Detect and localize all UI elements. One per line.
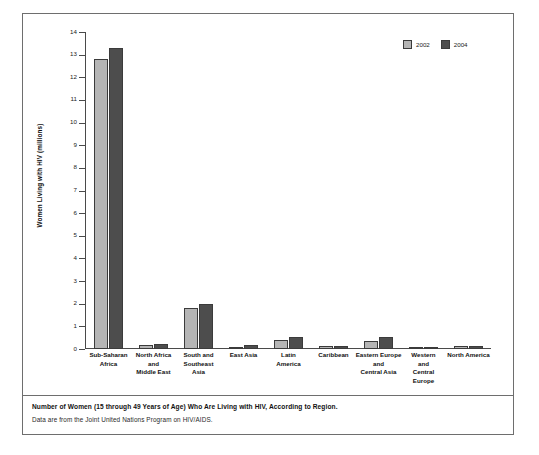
legend-label: 2004 bbox=[454, 41, 468, 48]
bar-2004 bbox=[244, 345, 259, 349]
y-tick: 10 bbox=[79, 123, 85, 124]
bar-group bbox=[94, 32, 124, 349]
y-tick: 12 bbox=[79, 77, 85, 78]
bar-group bbox=[229, 32, 259, 349]
y-tick-label: 10 bbox=[70, 118, 77, 125]
bar-2002 bbox=[139, 345, 154, 349]
y-tick-label: 0 bbox=[74, 345, 77, 352]
y-tick-label: 5 bbox=[74, 231, 77, 238]
caption-title: Number of Women (15 through 49 Years of … bbox=[32, 403, 504, 410]
y-tick-label: 2 bbox=[74, 299, 77, 306]
bar-2002 bbox=[229, 347, 244, 349]
y-tick: 4 bbox=[79, 258, 85, 259]
y-tick: 11 bbox=[79, 100, 85, 101]
y-tick-label: 7 bbox=[74, 186, 77, 193]
legend-label: 2002 bbox=[416, 41, 430, 48]
bar-2004 bbox=[379, 337, 394, 349]
legend-swatch-icon bbox=[403, 40, 412, 49]
bar-2002 bbox=[184, 308, 199, 349]
x-axis-label: North America bbox=[442, 351, 495, 360]
bar-2002 bbox=[409, 347, 424, 349]
y-tick: 14 bbox=[79, 32, 85, 33]
bar-2004 bbox=[109, 48, 124, 349]
bar-2004 bbox=[469, 346, 484, 349]
y-tick: 2 bbox=[79, 304, 85, 305]
legend-swatch-icon bbox=[441, 40, 450, 49]
y-tick: 6 bbox=[79, 213, 85, 214]
caption: Number of Women (15 through 49 Years of … bbox=[23, 396, 513, 423]
legend-item: 2004 bbox=[441, 40, 468, 49]
y-tick: 8 bbox=[79, 168, 85, 169]
figure-frame: Women Living with HIV (millions) 0123456… bbox=[22, 13, 514, 435]
bar-group bbox=[139, 32, 169, 349]
bar-2004 bbox=[199, 304, 214, 349]
y-tick-label: 12 bbox=[70, 73, 77, 80]
y-tick-label: 11 bbox=[71, 95, 77, 102]
y-tick: 13 bbox=[79, 55, 85, 56]
bar-2004 bbox=[289, 337, 304, 349]
plot-region: Women Living with HIV (millions) 0123456… bbox=[23, 14, 515, 386]
bar-group bbox=[184, 32, 214, 349]
bar-2002 bbox=[94, 59, 109, 349]
y-tick: 9 bbox=[79, 145, 85, 146]
bar-group bbox=[319, 32, 349, 349]
bar-2002 bbox=[454, 346, 469, 349]
bar-group bbox=[364, 32, 394, 349]
y-tick-label: 8 bbox=[74, 163, 77, 170]
bars-layer bbox=[86, 32, 491, 349]
y-tick-label: 1 bbox=[74, 322, 77, 329]
y-tick-label: 6 bbox=[74, 209, 77, 216]
x-axis-labels: Sub-SaharanAfricaNorth AfricaandMiddle E… bbox=[86, 351, 491, 397]
bar-group bbox=[409, 32, 439, 349]
bar-2002 bbox=[364, 341, 379, 349]
y-tick-label: 14 bbox=[70, 28, 77, 35]
y-axis-title: Women Living with HIV (millions) bbox=[36, 66, 43, 286]
y-tick-label: 9 bbox=[74, 141, 77, 148]
y-tick-label: 13 bbox=[70, 50, 77, 57]
y-tick: 1 bbox=[79, 326, 85, 327]
y-tick-label: 4 bbox=[74, 254, 77, 261]
legend-item: 2002 bbox=[403, 40, 430, 49]
caption-source: Data are from the Joint United Nations P… bbox=[32, 416, 504, 423]
bar-group bbox=[274, 32, 304, 349]
bar-2004 bbox=[424, 347, 439, 349]
bar-group bbox=[454, 32, 484, 349]
y-tick-label: 3 bbox=[74, 277, 77, 284]
bar-2002 bbox=[319, 346, 334, 349]
y-tick: 0 bbox=[79, 349, 85, 350]
bar-2004 bbox=[154, 344, 169, 349]
legend: 20022004 bbox=[403, 40, 468, 49]
bar-2004 bbox=[334, 346, 349, 349]
y-tick: 5 bbox=[79, 236, 85, 237]
y-tick: 3 bbox=[79, 281, 85, 282]
bar-2002 bbox=[274, 340, 289, 349]
y-tick: 7 bbox=[79, 191, 85, 192]
